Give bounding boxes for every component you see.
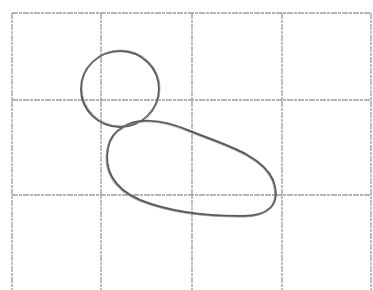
- body-blob-ghost: [106, 122, 275, 217]
- sketch-canvas: [0, 0, 373, 290]
- grid: [12, 13, 371, 290]
- head-circle-ghost: [82, 50, 160, 126]
